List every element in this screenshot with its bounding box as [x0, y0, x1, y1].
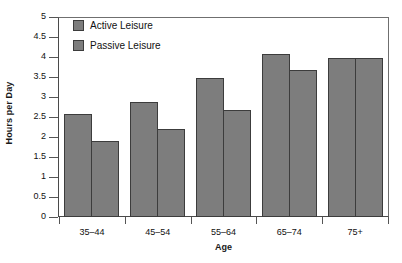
x-axis-tick-label: 35–44 — [57, 227, 127, 237]
legend-entry-passive-leisure: Passive Leisure — [73, 40, 161, 51]
bar-active — [262, 54, 290, 217]
legend-swatch-icon-passive — [73, 40, 84, 51]
bar-chart: Hours per Day 54.543.532.521.510.50 35–4… — [0, 0, 402, 263]
y-axis-tick — [49, 97, 58, 98]
y-axis-tick-label: 0 — [2, 212, 46, 221]
y-axis-tick-label: 1.5 — [2, 152, 46, 161]
x-axis-tick — [191, 217, 192, 224]
y-axis-tick-label: 3 — [2, 92, 46, 101]
bar-active — [196, 78, 224, 217]
y-axis-tick — [49, 137, 58, 138]
x-axis-tick — [125, 217, 126, 224]
y-axis-tick — [49, 177, 58, 178]
legend-label-active: Active Leisure — [90, 20, 153, 31]
y-axis-tick-label: 0.5 — [2, 192, 46, 201]
bar-passive — [223, 110, 251, 217]
y-axis-tick-label: 3.5 — [2, 72, 46, 81]
x-axis-tick — [322, 217, 323, 224]
legend-label-passive: Passive Leisure — [90, 40, 161, 51]
x-axis-tick — [388, 217, 389, 224]
y-axis-tick — [49, 57, 58, 58]
y-axis-tick — [49, 157, 58, 158]
legend-entry-active-leisure: Active Leisure — [73, 20, 161, 31]
chart-legend: Active Leisure Passive Leisure — [73, 20, 161, 51]
y-axis-tick — [49, 17, 58, 18]
y-axis-tick-label: 4 — [2, 52, 46, 61]
y-axis-tick-label: 1 — [2, 172, 46, 181]
bar-group — [328, 18, 383, 217]
y-axis-tick — [49, 117, 58, 118]
x-axis-tick-label: 45–54 — [123, 227, 193, 237]
x-axis-title: Age — [58, 242, 389, 252]
bar-active — [328, 58, 356, 217]
bar-passive — [289, 70, 317, 217]
bar-passive — [157, 129, 185, 217]
x-axis-tick-label: 65–74 — [254, 227, 324, 237]
y-axis-tick — [49, 197, 58, 198]
bar-active — [130, 102, 158, 217]
y-axis-tick-label: 2 — [2, 132, 46, 141]
y-axis-tick-label: 2.5 — [2, 112, 46, 121]
y-axis-tick — [49, 217, 58, 218]
y-axis-tick-label: 4.5 — [2, 32, 46, 41]
bar-group — [196, 18, 251, 217]
bar-passive — [91, 141, 119, 217]
y-axis-tick — [49, 77, 58, 78]
bar-group — [262, 18, 317, 217]
x-axis-tick — [256, 217, 257, 224]
bar-passive — [355, 58, 383, 217]
y-axis-tick — [49, 37, 58, 38]
x-axis-tick-label: 75+ — [320, 227, 390, 237]
legend-swatch-icon-active — [73, 20, 84, 31]
x-axis-tick-label: 55–64 — [189, 227, 259, 237]
y-axis-tick-label: 5 — [2, 12, 46, 21]
x-axis-tick — [59, 217, 60, 224]
bar-active — [64, 114, 92, 217]
